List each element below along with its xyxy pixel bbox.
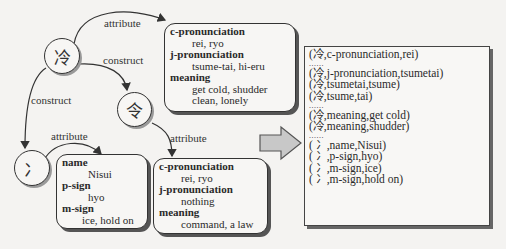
triple-row: ( 冫,m-sign,hold on) [309, 174, 485, 185]
card-key: p-sign [62, 180, 142, 192]
node-rei: 冷 [44, 38, 80, 74]
rei-glyph: 冷 [54, 44, 71, 69]
card-nisui-attributes: name Nisui p-sign hyo m-sign ice, hold o… [56, 154, 148, 229]
triple-row: (冷,c-pronunciation,rei) [309, 49, 485, 60]
card-key: meaning [170, 72, 290, 84]
triple-row: (冷,meaning,shudder) [309, 121, 485, 132]
triple-row: (冷,tsumetai,tsume) [309, 79, 485, 90]
card-value: command, a law [159, 219, 262, 231]
transform-arrow-icon [259, 125, 303, 161]
card-value: ice, hold on [62, 215, 142, 227]
edge-rei-construct-ryo [78, 64, 127, 90]
edge-ryo-attribute [152, 123, 172, 156]
card-key: c-pronunciation [159, 161, 262, 173]
label-rei-construct-nisui: construct [31, 94, 71, 106]
card-key: j-pronunciation [170, 49, 290, 61]
triple-row: ( 冫,p-sign,hyo) [309, 151, 485, 162]
card-key: j-pronunciation [159, 184, 262, 196]
nisui-glyph: 冫 [24, 156, 41, 181]
triples-list: (冷,c-pronunciation,rei) ...... (冷,j-pron… [304, 46, 490, 226]
label-rei-construct-ryo: construct [103, 54, 143, 66]
node-nisui: 冫 [14, 150, 50, 186]
card-key: meaning [159, 207, 262, 219]
label-nisui-attribute: attribute [51, 130, 88, 142]
label-rei-attribute: attribute [104, 17, 141, 29]
label-ryo-attribute: attribute [170, 132, 207, 144]
card-value: clean, lonely [170, 95, 290, 107]
ryo-glyph: 令 [126, 97, 143, 122]
edge-rei-construct-nisui [25, 68, 46, 148]
node-ryo: 令 [117, 92, 152, 127]
card-key: name [62, 157, 142, 169]
card-ryo-attributes: c-pronunciation rei, ryo j-pronunciation… [153, 158, 268, 234]
card-rei-attributes: c-pronunciation rei, ryo j-pronunciation… [164, 23, 296, 112]
card-key: c-pronunciation [170, 26, 290, 38]
triple-row: (冷,tsume,tai) [309, 91, 485, 102]
card-key: m-sign [62, 203, 142, 215]
